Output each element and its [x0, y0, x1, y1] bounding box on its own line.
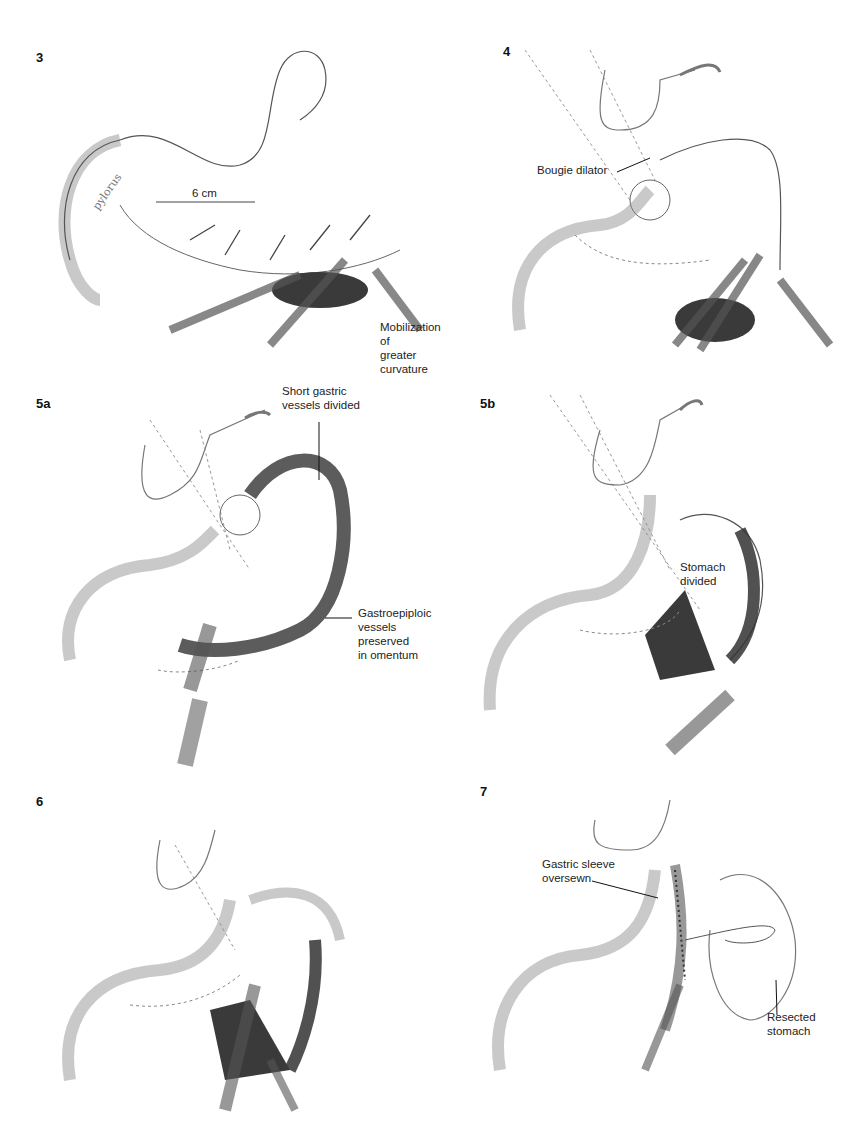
panel-4: 4 Bougie dilator	[480, 0, 866, 370]
stomach-divided-label: Stomach divided	[680, 560, 725, 588]
resected-stomach-label: Resected stomach	[767, 1010, 816, 1038]
panel-5b: 5b Stomach divided	[470, 370, 866, 770]
panel-3: 3 pylorus 6 cm Mobilization of greater c…	[0, 0, 440, 370]
stomach-illustration	[470, 770, 866, 1137]
panel-7: 7 Gastric sleeve oversewn Resected stoma…	[470, 770, 866, 1137]
stomach-illustration	[0, 0, 440, 370]
stomach-illustration	[480, 0, 866, 370]
stomach-illustration	[0, 770, 440, 1137]
panel-5a: 5a Short gastric vessels divided Gastroe…	[0, 370, 440, 770]
caption-mobilization: Mobilization of greater curvature	[380, 320, 441, 376]
panel-6: 6	[0, 770, 440, 1137]
stomach-illustration	[470, 370, 866, 770]
gastroepiploic-vessels-label: Gastroepiploic vessels preserved in omen…	[358, 606, 432, 662]
gastric-sleeve-oversewn-label: Gastric sleeve oversewn	[542, 857, 615, 885]
measure-label: 6 cm	[192, 186, 217, 200]
bougie-dilator-label: Bougie dilator	[537, 163, 607, 177]
stomach-illustration	[0, 370, 440, 770]
short-gastric-vessels-label: Short gastric vessels divided	[282, 384, 360, 412]
